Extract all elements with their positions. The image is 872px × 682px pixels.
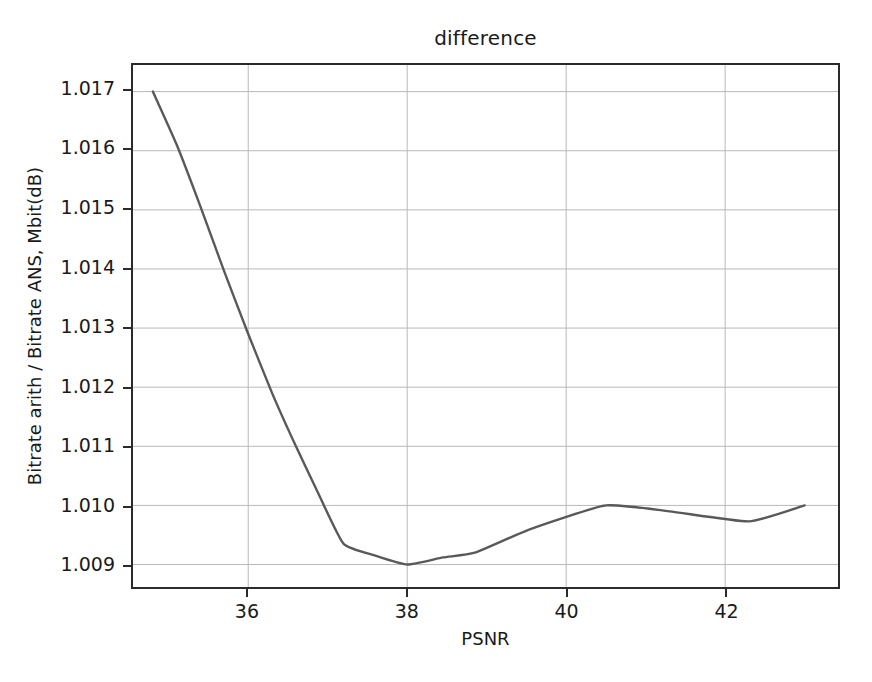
- x-tick-label: 42: [696, 600, 756, 622]
- x-axis-label: PSNR: [131, 628, 840, 649]
- y-tick-mark: [123, 446, 131, 448]
- y-tick-mark: [123, 148, 131, 150]
- y-tick-mark: [123, 268, 131, 270]
- x-tick-mark: [406, 589, 408, 597]
- chart-title: difference: [131, 26, 840, 50]
- x-tick-mark: [566, 589, 568, 597]
- y-tick-mark: [123, 327, 131, 329]
- y-axis-label: Bitrate arith / Bitrate ANS, Mbit(dB): [18, 63, 52, 589]
- y-tick-mark: [123, 565, 131, 567]
- series-layer: [133, 65, 838, 587]
- y-tick-mark: [123, 506, 131, 508]
- x-tick-label: 40: [537, 600, 597, 622]
- series-line: [153, 92, 805, 565]
- y-tick-mark: [123, 387, 131, 389]
- y-tick-mark: [123, 208, 131, 210]
- chart-figure: difference 1.0091.0101.0111.0121.0131.01…: [0, 0, 872, 682]
- x-tick-mark: [725, 589, 727, 597]
- x-tick-mark: [246, 589, 248, 597]
- x-tick-label: 36: [217, 600, 277, 622]
- plot-area: [131, 63, 840, 589]
- x-tick-label: 38: [377, 600, 437, 622]
- y-tick-mark: [123, 89, 131, 91]
